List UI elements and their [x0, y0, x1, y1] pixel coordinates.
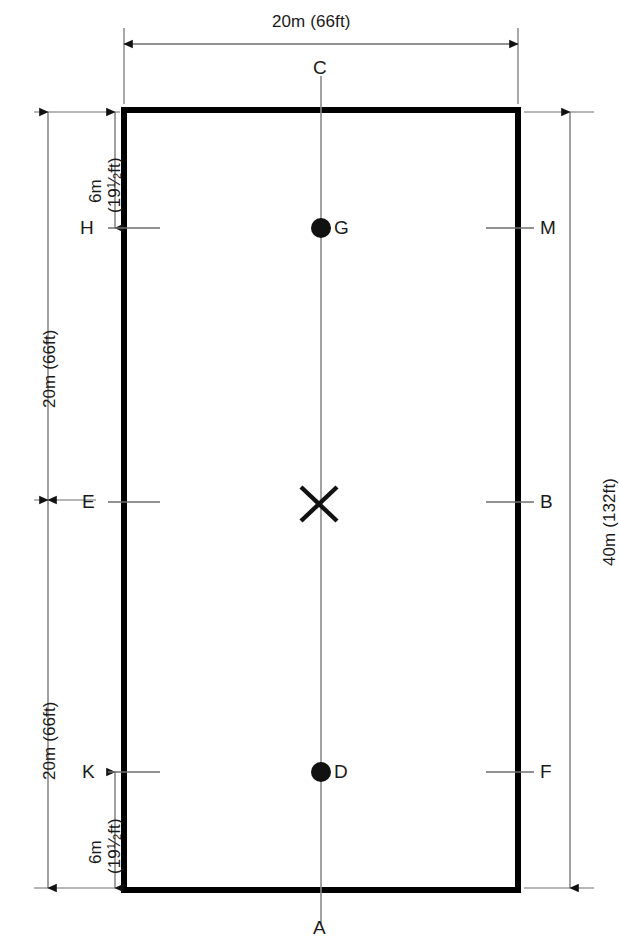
marker-label-E: E: [82, 492, 95, 511]
marker-label-B: B: [540, 492, 553, 511]
top-width-dimension-label: 20m (66ft): [272, 12, 350, 31]
top-inset-dimension-label-feet: (191⁄2ft): [105, 157, 124, 213]
point-marker-G: [311, 218, 331, 238]
marker-label-A: A: [313, 918, 326, 937]
point-marker-D: [311, 762, 331, 782]
marker-label-F: F: [540, 762, 552, 781]
marker-label-M: M: [540, 218, 556, 237]
lower-half-dimension-label: 20m (66ft): [40, 702, 59, 780]
marker-label-H: H: [80, 218, 94, 237]
arena-plan-svg: [0, 0, 619, 952]
dressage-arena-diagram: 20m (66ft) 40m (132ft) 20m (66ft) 20m (6…: [0, 0, 619, 952]
marker-label-K: K: [82, 762, 95, 781]
upper-half-dimension-label: 20m (66ft): [40, 330, 59, 408]
marker-label-G: G: [334, 218, 349, 237]
top-inset-dimension-label-meters: 6m: [86, 179, 105, 203]
bottom-inset-dimension-label-meters: 6m: [86, 840, 105, 864]
marker-label-C: C: [313, 58, 327, 77]
bottom-inset-dimension-label-feet: (191⁄2ft): [105, 818, 124, 874]
marker-label-D: D: [334, 762, 348, 781]
right-height-dimension-label: 40m (132ft): [600, 478, 619, 566]
